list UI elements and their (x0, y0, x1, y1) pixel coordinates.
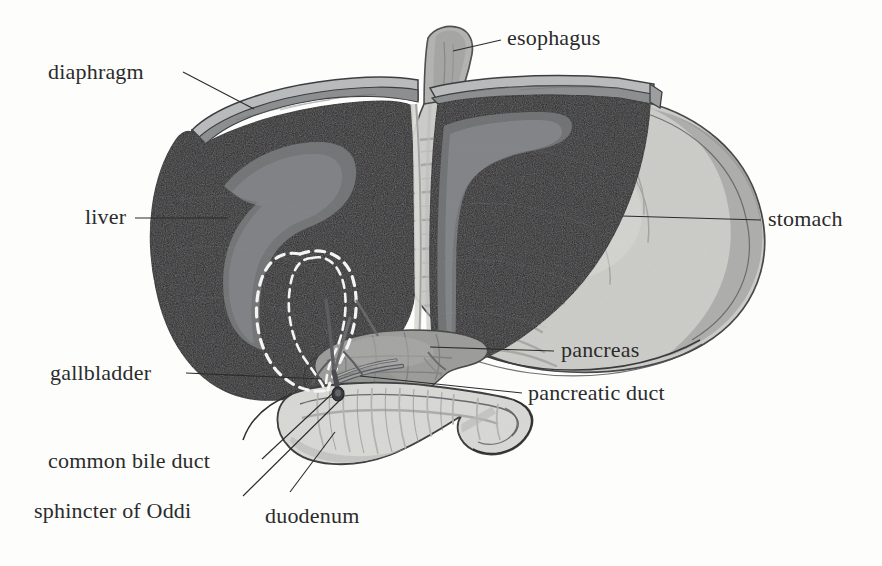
anatomy-illustration (0, 0, 882, 566)
label-gallbladder: gallbladder (50, 362, 151, 384)
label-stomach: stomach (768, 208, 843, 230)
label-pancreas: pancreas (561, 339, 640, 361)
label-diaphragm: diaphragm (48, 61, 144, 83)
label-esophagus: esophagus (507, 27, 600, 49)
label-sphincter-of-oddi: sphincter of Oddi (34, 500, 191, 522)
leader-diaphragm (183, 72, 254, 109)
label-liver: liver (85, 206, 126, 228)
anatomical-figure: diaphragmesophagusliverstomachpancreasga… (0, 0, 882, 566)
label-common-bile-duct: common bile duct (48, 450, 210, 472)
label-duodenum: duodenum (265, 505, 359, 527)
label-pancreatic-duct: pancreatic duct (528, 382, 665, 404)
